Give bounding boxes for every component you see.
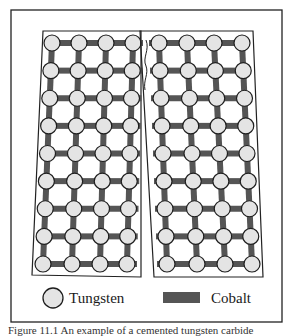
tungsten-particle (157, 201, 173, 217)
tungsten-particle (187, 201, 203, 217)
tungsten-particle (38, 173, 54, 189)
tungsten-particle (152, 63, 168, 79)
tungsten-particle (124, 90, 140, 106)
tungsten-particle (217, 256, 233, 272)
tungsten-particle (94, 173, 110, 189)
tungsten-particle (235, 63, 251, 79)
tungsten-particle (213, 173, 229, 189)
tungsten-particle (238, 118, 254, 134)
left-fragment (32, 31, 143, 277)
tungsten-particle (98, 35, 114, 51)
tungsten-particle (214, 201, 230, 217)
tungsten-particle (65, 228, 81, 244)
tungsten-particle (44, 35, 60, 51)
crack-line (145, 40, 148, 90)
tungsten-particle (209, 90, 225, 106)
cobalt-legend-label: Cobalt (211, 291, 251, 306)
tungsten-particle (119, 256, 135, 272)
tungsten-particle (120, 228, 136, 244)
tungsten-particle (182, 90, 198, 106)
tungsten-particle (121, 201, 137, 217)
tungsten-particle (183, 118, 199, 134)
tungsten-particle (64, 256, 80, 272)
tungsten-particle (212, 146, 228, 162)
tungsten-particle (240, 173, 256, 189)
tungsten-particle (154, 118, 170, 134)
tungsten-particle (71, 35, 87, 51)
tungsten-particle (96, 118, 112, 134)
tungsten-particle (207, 63, 223, 79)
tungsten-particle (158, 228, 174, 244)
tungsten-particle (239, 146, 255, 162)
tungsten-particle (155, 146, 171, 162)
tungsten-particle (124, 63, 140, 79)
tungsten-particle (68, 118, 84, 134)
tungsten-particle (97, 90, 113, 106)
tungsten-particle (237, 90, 253, 106)
tungsten-particle (234, 35, 250, 51)
tungsten-particle (184, 146, 200, 162)
tungsten-particle (41, 118, 57, 134)
tungsten-particle (180, 63, 196, 79)
tungsten-particle (243, 228, 259, 244)
tungsten-particle (42, 90, 58, 106)
tungsten-particle (153, 90, 169, 106)
tungsten-particle (151, 35, 167, 51)
tungsten-legend-label: Tungsten (69, 291, 124, 306)
tungsten-particle (123, 118, 139, 134)
tungsten-legend-icon (43, 288, 63, 308)
cobalt-legend-icon (163, 292, 200, 303)
tungsten-particle (216, 228, 232, 244)
tungsten-particle (95, 146, 111, 162)
tungsten-particle (92, 256, 108, 272)
tungsten-particle (156, 173, 172, 189)
tungsten-particle (206, 35, 222, 51)
tungsten-particle (35, 256, 51, 272)
tungsten-particle (66, 201, 82, 217)
tungsten-particle (36, 228, 52, 244)
tungsten-particle (210, 118, 226, 134)
tungsten-particle (43, 63, 59, 79)
tungsten-particle (159, 256, 175, 272)
tungsten-particle (185, 173, 201, 189)
tungsten-particle (69, 90, 85, 106)
tungsten-particle (189, 256, 205, 272)
figure-caption: Figure 11.1 An example of a cemented tun… (8, 325, 254, 336)
tungsten-particle (40, 146, 56, 162)
tungsten-particle (122, 146, 138, 162)
tungsten-particle (188, 228, 204, 244)
tungsten-particle (97, 63, 113, 79)
tungsten-particle (37, 201, 53, 217)
tungsten-particle (70, 63, 86, 79)
tungsten-particle (125, 35, 141, 51)
tungsten-particle (93, 228, 109, 244)
tungsten-particle (67, 173, 83, 189)
tungsten-particle (179, 35, 195, 51)
tungsten-particle (94, 201, 110, 217)
right-fragment (140, 31, 263, 277)
tungsten-particle (242, 201, 258, 217)
tungsten-particle (244, 256, 260, 272)
tungsten-particle (68, 146, 84, 162)
tungsten-particle (121, 173, 137, 189)
